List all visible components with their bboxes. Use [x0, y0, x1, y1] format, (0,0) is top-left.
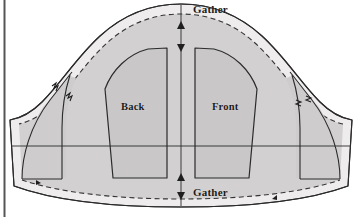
pattern-diagram-canvas: Gather Gather Back Front: [0, 0, 363, 217]
pattern-drawing: [0, 0, 363, 217]
front-panel-label: Front: [212, 101, 238, 112]
gather-label-bottom: Gather: [193, 186, 228, 198]
gather-label-top: Gather: [193, 3, 228, 15]
back-panel-label: Back: [121, 101, 145, 112]
